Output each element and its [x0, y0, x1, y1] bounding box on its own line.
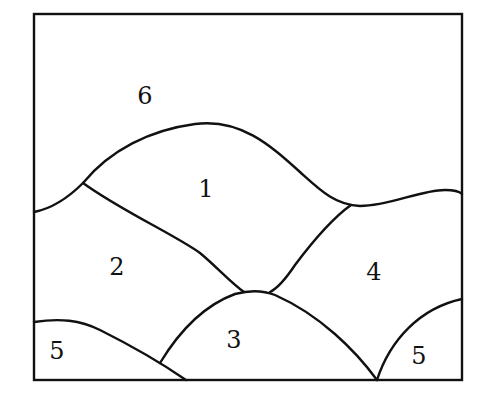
diagram-frame — [34, 14, 462, 380]
boundary-1-4 — [270, 205, 351, 292]
boundary-6-top — [34, 123, 462, 212]
region-label-1: 1 — [198, 175, 213, 203]
region-map-diagram: 1 2 3 4 5 5 6 — [0, 0, 488, 406]
region-label-3: 3 — [226, 326, 241, 354]
region-label-2: 2 — [109, 253, 124, 281]
region-label-5-right: 5 — [411, 342, 426, 370]
region-label-4: 4 — [366, 258, 381, 286]
region-label-5-left: 5 — [49, 337, 64, 365]
region-label-6: 6 — [137, 82, 152, 110]
boundary-1-2 — [83, 183, 244, 292]
boundary-region-3 — [160, 291, 377, 380]
